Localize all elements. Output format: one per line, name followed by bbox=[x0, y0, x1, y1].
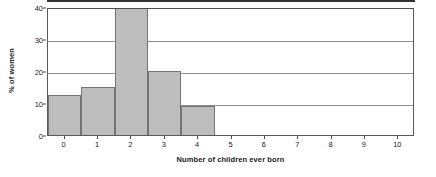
x-tick-mark bbox=[97, 136, 98, 139]
y-tick-mark bbox=[43, 72, 46, 73]
x-axis-baseline bbox=[47, 0, 415, 2]
x-tick-label: 10 bbox=[393, 140, 401, 149]
y-tick-label: 10 bbox=[35, 100, 43, 109]
y-axis-title: % of women bbox=[0, 0, 22, 140]
bar bbox=[115, 8, 148, 135]
x-tick-mark bbox=[130, 136, 131, 139]
x-tick-mark bbox=[64, 136, 65, 139]
y-tick-label: 20 bbox=[35, 68, 43, 77]
x-tick-mark bbox=[164, 136, 165, 139]
gridline bbox=[48, 73, 413, 74]
y-tick-mark bbox=[43, 40, 46, 41]
bar bbox=[48, 95, 81, 135]
x-tick-mark bbox=[397, 136, 398, 139]
x-tick-label: 5 bbox=[228, 140, 232, 149]
x-tick-label: 0 bbox=[62, 140, 66, 149]
plot-area bbox=[47, 8, 414, 136]
y-tick-label: 40 bbox=[35, 4, 43, 13]
x-tick-mark bbox=[364, 136, 365, 139]
y-axis-tick-labels: 010203040 bbox=[22, 8, 46, 136]
gridline bbox=[48, 41, 413, 42]
x-tick-mark bbox=[197, 136, 198, 139]
x-tick-mark bbox=[264, 136, 265, 139]
bar bbox=[81, 87, 114, 135]
x-tick-label: 1 bbox=[95, 140, 99, 149]
x-tick-label: 7 bbox=[295, 140, 299, 149]
x-axis-tick-labels: 012345678910 bbox=[47, 136, 414, 154]
y-tick-mark bbox=[43, 8, 46, 9]
histogram-chart: % of women 010203040 012345678910 Number… bbox=[0, 0, 436, 177]
x-tick-label: 2 bbox=[128, 140, 132, 149]
x-tick-mark bbox=[297, 136, 298, 139]
bar bbox=[148, 71, 181, 135]
x-tick-label: 9 bbox=[362, 140, 366, 149]
y-tick-mark bbox=[43, 136, 46, 137]
x-tick-label: 3 bbox=[162, 140, 166, 149]
bar bbox=[181, 106, 214, 135]
x-tick-label: 4 bbox=[195, 140, 199, 149]
y-tick-mark bbox=[43, 104, 46, 105]
y-axis-title-text: % of women bbox=[7, 48, 16, 93]
x-tick-mark bbox=[231, 136, 232, 139]
y-tick-label: 30 bbox=[35, 36, 43, 45]
x-tick-mark bbox=[331, 136, 332, 139]
x-tick-label: 8 bbox=[328, 140, 332, 149]
x-axis-title: Number of children ever born bbox=[47, 155, 414, 164]
x-tick-label: 6 bbox=[262, 140, 266, 149]
